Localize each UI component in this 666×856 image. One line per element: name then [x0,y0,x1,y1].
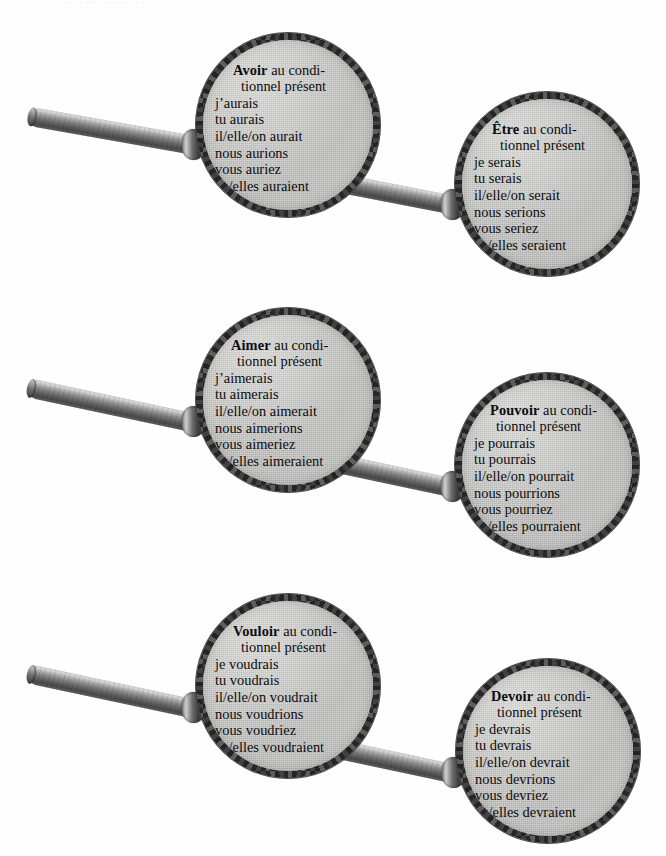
tense-line-2: tionnel présent [215,78,365,95]
lens-glass: Devoir au condi- tionnel présent je devr… [463,666,633,836]
tense-part-1: au condi- [268,62,326,78]
verb-title-line: Être au condi- [474,121,624,138]
verb-form: vous pourriez [474,501,624,518]
verb-form: j’aurais [215,95,365,112]
verb-name: Vouloir [233,623,280,639]
tense-line-2: tionnel présent [215,639,365,656]
verb-form: tu aimerais [215,386,365,403]
verb-form: il/elle/on serait [474,187,624,204]
verb-title-line: Vouloir au condi- [215,623,365,640]
verb-form: ils/elles devraient [475,804,625,821]
verb-form: je serais [474,154,624,171]
verb-form: tu serais [474,170,624,187]
verb-form: je voudrais [215,656,365,673]
magnifier-handle [26,664,208,720]
verb-form: nous pourrions [474,485,624,502]
verb-form: il/elle/on devrait [475,754,625,771]
verb-name: Être [492,121,519,137]
lens-glass: Être au condi- tionnel présent je serais… [462,99,632,269]
verb-name: Pouvoir [490,402,539,418]
verb-form: il/elle/on aurait [215,128,365,145]
tense-part-1: au condi- [539,402,597,418]
conjugation-block: Devoir au condi- tionnel présent je devr… [463,666,633,836]
lens-rim [456,659,640,843]
verb-name: Devoir [491,688,533,704]
magnifier-handle [26,378,208,434]
conjugation-block: Pouvoir au condi- tionnel présent je pou… [462,380,632,550]
tense-part-1: au condi- [533,688,591,704]
conjugation-block: Être au condi- tionnel présent je serais… [462,99,632,269]
magnifier-ferrule [441,189,464,220]
magnifier-ferrule [182,129,205,160]
magnifier-handle [286,729,468,785]
verb-form: nous aimerions [215,420,365,437]
verb-name: Aimer [231,337,271,353]
tense-line-2: tionnel présent [474,418,624,435]
tense-line-2: tionnel présent [475,704,625,721]
verb-form: nous voudrions [215,706,365,723]
lens-glass: Pouvoir au condi- tionnel présent je pou… [462,380,632,550]
verb-form: il/elle/on voudrait [215,689,365,706]
verb-title-line: Aimer au condi- [215,337,365,354]
verb-form: ils/elles pourraient [474,518,624,535]
verb-form: il/elle/on pourrait [474,468,624,485]
verb-form: tu voudrais [215,672,365,689]
magnifier-lens: Devoir au condi- tionnel présent je devr… [456,659,640,843]
tense-part-1: au condi- [271,337,329,353]
verb-form: vous seriez [474,220,624,237]
magnifier-ferrule [441,471,464,502]
magnifier-ferrule [182,406,205,437]
tense-part-1: au condi- [519,121,577,137]
verb-form: nous serions [474,204,624,221]
lens-rim [455,373,639,557]
lens-rim [455,92,639,276]
verb-title-line: Pouvoir au condi- [474,402,624,419]
verb-form: vous devriez [475,787,625,804]
verb-form: j’aimerais [215,370,365,387]
magnifier-ferrule [182,692,205,723]
verb-form: je pourrais [474,435,624,452]
magnifier-handle [27,107,208,157]
tense-part-1: au condi- [280,623,338,639]
verb-form: il/elle/on aimerait [215,403,365,420]
tense-line-2: tionnel présent [474,137,624,154]
magnifier-handle [285,163,467,216]
verb-form: ils/elles seraient [474,237,624,254]
verb-form: nous devrions [475,771,625,788]
magnifier-ferrule [442,757,465,788]
page-canvas: ··· ·· ···· ·· ···· ·· ·· Avoir au condi… [0,0,666,856]
magnifier-handle [285,443,467,499]
verb-form: je devrais [475,721,625,738]
magnifier-lens: Être au condi- tionnel présent je serais… [455,92,639,276]
verb-title-line: Devoir au condi- [475,688,625,705]
tense-line-2: tionnel présent [215,353,365,370]
cropped-header-remnant: ··· ·· ···· ·· ···· ·· ·· [62,0,252,4]
verb-form: tu devrais [475,737,625,754]
verb-name: Avoir [233,62,268,78]
verb-form: tu aurais [215,111,365,128]
verb-title-line: Avoir au condi- [215,62,365,79]
magnifier-lens: Pouvoir au condi- tionnel présent je pou… [455,373,639,557]
verb-form: nous aurions [215,145,365,162]
verb-form: tu pourrais [474,451,624,468]
